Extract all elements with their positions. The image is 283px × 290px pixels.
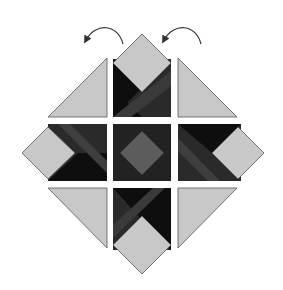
unit-center [113, 124, 171, 181]
quilt-diagram-canvas [0, 0, 283, 290]
left-rotate-arrow-icon [86, 28, 123, 44]
unit-middle-right [178, 124, 264, 181]
quilt-diagram [0, 0, 283, 290]
unit-top-right [178, 58, 237, 117]
unit-bottom-right [178, 188, 237, 248]
unit-middle-left [22, 124, 107, 181]
right-rotate-arrow-icon [164, 28, 201, 44]
unit-top-center [113, 34, 171, 117]
unit-bottom-center [113, 188, 171, 274]
unit-top-left [48, 58, 107, 117]
unit-bottom-left [48, 188, 107, 248]
